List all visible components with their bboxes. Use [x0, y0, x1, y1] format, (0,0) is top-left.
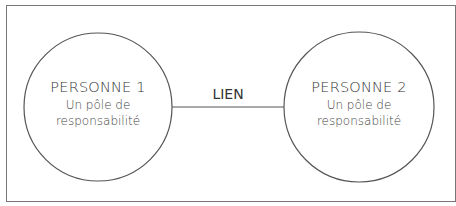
node-2-text: PERSONNE 2 Un pôle de responsabilité [299, 78, 419, 129]
node-1-title: PERSONNE 1 [38, 78, 158, 97]
node-2-title: PERSONNE 2 [299, 78, 419, 97]
node-1-line1: Un pôle de [38, 97, 158, 113]
node-1-line2: responsabilité [38, 113, 158, 129]
node-2-line1: Un pôle de [299, 97, 419, 113]
node-1-text: PERSONNE 1 Un pôle de responsabilité [38, 78, 158, 129]
link-label: LIEN [198, 86, 258, 102]
node-2-line2: responsabilité [299, 113, 419, 129]
